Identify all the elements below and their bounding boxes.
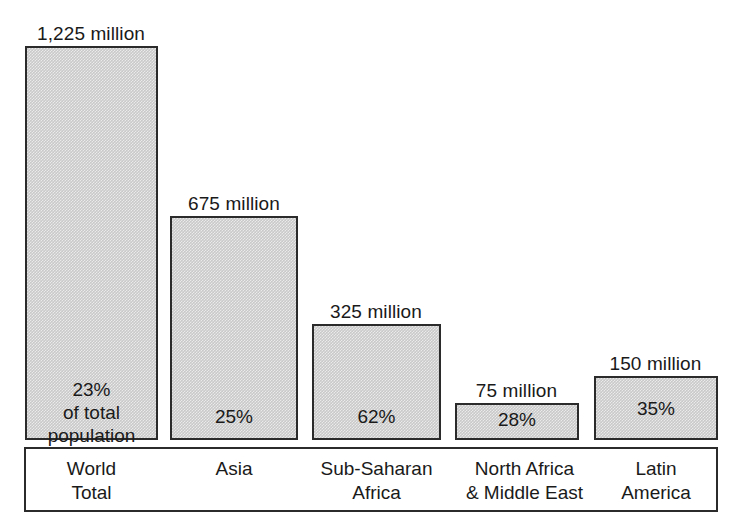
bar-percent-label-north-africa-middle-east: 28% bbox=[455, 408, 579, 431]
bar-percent-label-asia: 25% bbox=[170, 405, 298, 428]
category-label-world-total: World Total bbox=[25, 457, 158, 505]
category-label-north-africa-middle-east: North Africa & Middle East bbox=[450, 457, 599, 505]
bar-value-label-north-africa-middle-east: 75 million bbox=[448, 380, 585, 402]
bar-percent-label-latin-america: 35% bbox=[594, 397, 718, 420]
category-axis-box: World Total Asia Sub-Saharan Africa Nort… bbox=[24, 447, 718, 512]
category-label-asia: Asia bbox=[170, 457, 298, 481]
bar-percent-label-world-total: 23% of total population bbox=[25, 378, 158, 447]
category-label-sub-saharan-africa: Sub-Saharan Africa bbox=[312, 457, 441, 505]
bar-percent-label-sub-saharan-africa: 62% bbox=[312, 405, 441, 428]
bar-chart: 1,225 million 23% of total population 67… bbox=[0, 0, 741, 525]
bar-value-label-world-total: 1,225 million bbox=[17, 23, 165, 45]
category-label-latin-america: Latin America bbox=[594, 457, 718, 505]
bar-value-label-asia: 675 million bbox=[163, 193, 305, 215]
bar-value-label-sub-saharan-africa: 325 million bbox=[305, 301, 447, 323]
bar-value-label-latin-america: 150 million bbox=[587, 353, 724, 375]
